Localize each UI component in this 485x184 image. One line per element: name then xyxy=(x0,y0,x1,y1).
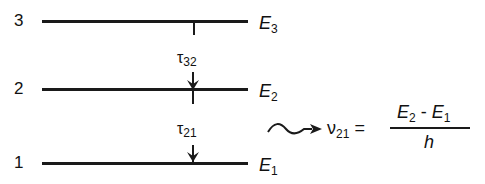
level-3-number: 3 xyxy=(14,12,23,29)
level-2-number: 2 xyxy=(14,80,23,97)
level-1-line xyxy=(42,162,248,165)
tau-21-label: τ21 xyxy=(177,121,197,139)
fraction-bar xyxy=(390,127,470,129)
level-2-energy-label: E2 xyxy=(259,82,278,103)
level-3-line xyxy=(42,20,248,23)
photon-wavy-arrow-icon xyxy=(266,120,326,138)
level-3-tick xyxy=(193,22,195,35)
fraction-denominator: h xyxy=(424,133,434,151)
level-1-energy-label: E1 xyxy=(259,156,278,177)
decay-arrow-32-icon xyxy=(186,72,200,104)
level-3-energy-label: E3 xyxy=(259,14,278,35)
level-1-number: 1 xyxy=(14,154,23,171)
level-2-line xyxy=(42,88,248,91)
decay-arrow-21-icon xyxy=(186,145,200,163)
fraction-numerator: E2 - E1 xyxy=(397,103,450,124)
nu-21-lhs: ν21 = xyxy=(327,119,365,140)
tau-32-label: τ32 xyxy=(177,50,197,68)
